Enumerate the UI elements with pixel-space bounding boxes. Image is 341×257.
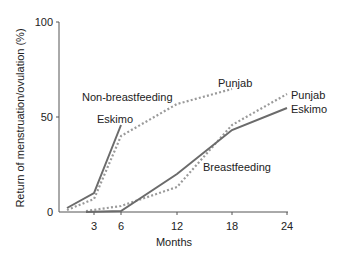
x-tick-24: 24 (281, 220, 293, 232)
annotation-punjab-nonbf: Punjab (218, 77, 252, 89)
annotation-non-breastfeeding: Non-breastfeeding (82, 91, 173, 103)
annotation-eskimo-nonbf: Eskimo (97, 113, 133, 125)
series-punjab-breastfeeding (86, 94, 287, 211)
x-axis-label: Months (156, 236, 193, 248)
x-tick-12: 12 (171, 220, 183, 232)
y-tick-50: 50 (41, 111, 53, 123)
x-axis: 3 6 12 18 24 (59, 212, 293, 232)
y-tick-0: 0 (47, 206, 53, 218)
annotation-eskimo-bf: Eskimo (291, 103, 327, 115)
x-tick-6: 6 (118, 220, 124, 232)
series-eskimo-nonbreastfeeding (67, 125, 121, 208)
y-axis: 100 50 0 (35, 16, 59, 218)
y-axis-label: Return of menstruation/ovulation (%) (14, 28, 26, 207)
x-tick-3: 3 (91, 220, 97, 232)
x-tick-18: 18 (226, 220, 238, 232)
chart-canvas: 100 50 0 3 6 12 18 24 Months Return of m… (0, 0, 341, 257)
annotation-breastfeeding: Breastfeeding (203, 161, 271, 173)
annotation-punjab-bf: Punjab (291, 89, 325, 101)
y-tick-100: 100 (35, 16, 53, 28)
